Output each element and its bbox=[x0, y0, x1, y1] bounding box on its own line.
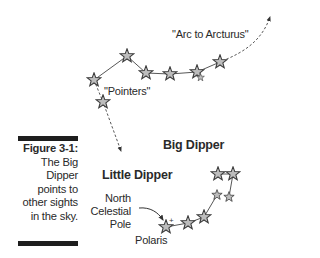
star-icon bbox=[226, 167, 240, 180]
ncp-label-line1: North bbox=[104, 192, 131, 204]
star-icon bbox=[87, 73, 101, 86]
polaris-label: Polaris bbox=[135, 234, 167, 246]
star-icon bbox=[224, 192, 234, 202]
star-icon bbox=[213, 55, 227, 68]
lower-dipper-lines bbox=[166, 174, 233, 227]
star-icon bbox=[181, 216, 195, 229]
big-dipper-label: Big Dipper bbox=[163, 138, 224, 152]
little-dipper-label: Little Dipper bbox=[102, 168, 172, 182]
ncp-label-line2: Celestial bbox=[82, 205, 131, 217]
pointers-label: "Pointers" bbox=[104, 85, 150, 97]
ncp-plus-marker: + bbox=[169, 216, 174, 225]
ncp-arrow bbox=[139, 208, 163, 220]
ncp-label-line3: Pole bbox=[104, 218, 131, 230]
star-icon bbox=[211, 167, 225, 180]
star-icon bbox=[212, 190, 222, 200]
star-icon bbox=[139, 66, 153, 79]
star-icon bbox=[197, 210, 211, 223]
arc-to-arcturus-label: "Arc to Arcturus" bbox=[172, 28, 249, 40]
star-icon bbox=[163, 67, 177, 80]
